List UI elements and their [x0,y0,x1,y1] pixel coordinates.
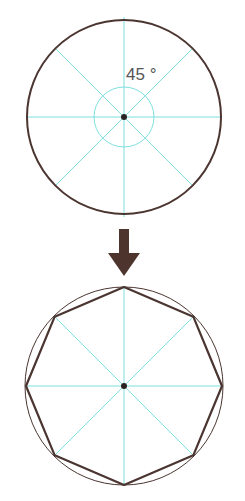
bottom-octagon-figure [25,287,223,485]
center-point [121,114,127,120]
octagon-center-point [121,383,127,389]
top-circle-figure: 45 ° [27,17,221,217]
octagon-construction-diagram: 45 ° [0,0,245,501]
angle-label: 45 ° [126,65,156,84]
down-arrow-icon [108,229,140,276]
